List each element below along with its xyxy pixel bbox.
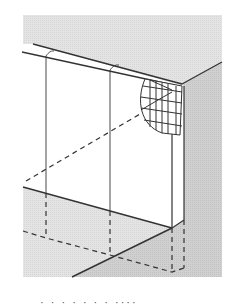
figure-caption: · · · · · · · ···· [40, 296, 200, 305]
wall-corner-diagram [0, 0, 240, 305]
